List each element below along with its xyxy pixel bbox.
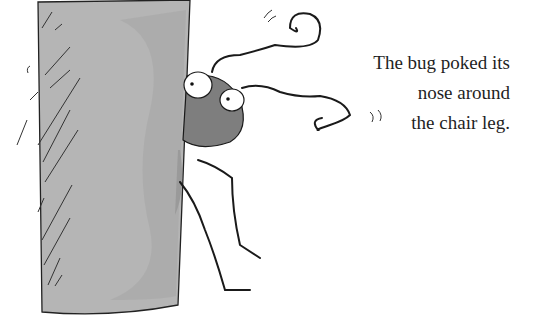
caption-line-1: The bug poked its (330, 48, 510, 78)
caption-line-3: the chair leg. (330, 108, 510, 138)
story-caption: The bug poked its nose around the chair … (330, 48, 510, 138)
chair-leg (17, 0, 190, 314)
caption-line-2: nose around (330, 78, 510, 108)
bug-eye-left (184, 72, 212, 98)
bug-eye-right (220, 89, 244, 111)
